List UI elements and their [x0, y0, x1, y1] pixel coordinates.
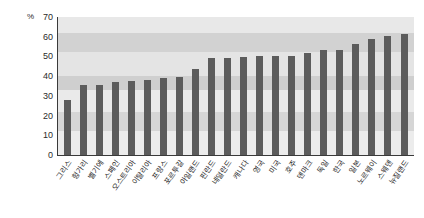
bar[interactable]: [224, 58, 231, 155]
bar[interactable]: [128, 81, 135, 155]
y-axis-tick-label: 60: [43, 32, 53, 41]
x-axis-labels: 그리스헝가리벨기에스페인오스트리아이탈리아프랑스포르투갈아일랜드핀란드네덜란드캐…: [57, 157, 414, 218]
x-label-slot: 아일랜드: [187, 157, 203, 218]
bar-slot: [75, 17, 91, 155]
x-label-slot: 포르투갈: [171, 157, 187, 218]
y-axis-tick-label: 30: [43, 91, 53, 100]
x-label-slot: 미국: [268, 157, 284, 218]
x-label-slot: 일본: [348, 157, 364, 218]
x-axis-tick-label: 호주: [284, 159, 298, 175]
x-label-slot: 캐나다: [236, 157, 252, 218]
bar-slot: [284, 17, 300, 155]
y-axis-tick-label: 20: [43, 111, 53, 120]
bar[interactable]: [352, 44, 359, 155]
x-label-slot: 헝가리: [75, 157, 91, 218]
y-axis-line: [57, 17, 58, 155]
bar[interactable]: [384, 36, 391, 155]
y-axis-tick-label: 10: [43, 131, 53, 140]
x-label-slot: 뉴질랜드: [396, 157, 412, 218]
plot-area: [57, 17, 414, 155]
bar[interactable]: [240, 57, 247, 155]
bar-slot: [236, 17, 252, 155]
x-axis-tick-label: 독일: [316, 159, 330, 175]
x-axis-tick-label: 영국: [252, 159, 266, 175]
bar[interactable]: [272, 56, 279, 155]
bar-slot: [348, 17, 364, 155]
bar[interactable]: [320, 50, 327, 155]
y-axis-tick-label: 50: [43, 52, 53, 61]
y-axis: % 706050403020100: [0, 0, 57, 218]
bar[interactable]: [336, 50, 343, 155]
x-label-slot: 호주: [284, 157, 300, 218]
bar-slot: [364, 17, 380, 155]
bar[interactable]: [64, 100, 71, 155]
bar-slot: [123, 17, 139, 155]
bar[interactable]: [192, 69, 199, 155]
bar-slot: [59, 17, 75, 155]
x-label-slot: 네덜란드: [219, 157, 235, 218]
x-label-slot: 프랑스: [155, 157, 171, 218]
bar[interactable]: [288, 56, 295, 155]
bar[interactable]: [304, 53, 311, 155]
y-axis-unit-label: %: [27, 13, 34, 21]
bar-chart: % 706050403020100 그리스헝가리벨기에스페인오스트리아이탈리아프…: [0, 0, 424, 218]
y-axis-tick-label: 70: [43, 13, 53, 22]
bar-slot: [139, 17, 155, 155]
bar[interactable]: [96, 85, 103, 155]
y-axis-tick-label: 0: [48, 151, 53, 160]
x-label-slot: 핀란드: [203, 157, 219, 218]
x-axis-tick-label: 그리스: [55, 159, 73, 181]
bar[interactable]: [80, 85, 87, 155]
bar-slot: [107, 17, 123, 155]
bar-slot: [300, 17, 316, 155]
bar[interactable]: [176, 77, 183, 155]
bar-slot: [316, 17, 332, 155]
bar-slot: [219, 17, 235, 155]
bar-slot: [252, 17, 268, 155]
x-label-slot: 그리스: [59, 157, 75, 218]
bar[interactable]: [112, 82, 119, 155]
bar-slot: [203, 17, 219, 155]
x-label-slot: 오스트리아: [123, 157, 139, 218]
x-label-slot: 스웨덴: [380, 157, 396, 218]
y-axis-tick-label: 40: [43, 72, 53, 81]
bar-slot: [91, 17, 107, 155]
bar-slot: [332, 17, 348, 155]
x-axis-line: [57, 155, 414, 156]
bars-layer: [57, 17, 414, 155]
x-label-slot: 한국: [332, 157, 348, 218]
x-axis-tick-label: 미국: [268, 159, 282, 175]
bar[interactable]: [256, 56, 263, 155]
bar-slot: [155, 17, 171, 155]
bar[interactable]: [160, 78, 167, 155]
x-label-slot: 덴마크: [300, 157, 316, 218]
x-label-slot: 벨기에: [91, 157, 107, 218]
x-label-slot: 영국: [252, 157, 268, 218]
bar[interactable]: [368, 39, 375, 155]
bar-slot: [187, 17, 203, 155]
bar[interactable]: [144, 80, 151, 155]
x-axis-tick-label: 한국: [332, 159, 346, 175]
bar-slot: [171, 17, 187, 155]
bar-slot: [396, 17, 412, 155]
bar-slot: [268, 17, 284, 155]
x-label-slot: 독일: [316, 157, 332, 218]
bar-slot: [380, 17, 396, 155]
x-label-slot: 이탈리아: [139, 157, 155, 218]
bar[interactable]: [208, 58, 215, 155]
bar[interactable]: [401, 34, 408, 155]
x-label-slot: 노르웨이: [364, 157, 380, 218]
